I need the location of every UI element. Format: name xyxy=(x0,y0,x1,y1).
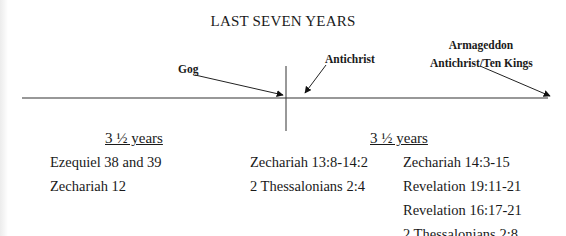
references-middle: Zechariah 13:8-14:2 2 Thessalonians 2:4 xyxy=(250,150,368,198)
marker-armageddon: Armageddon Antichrist/Ten Kings xyxy=(430,36,532,72)
marker-armageddon-line1: Armageddon xyxy=(430,36,532,54)
reference-item: Zechariah 12 xyxy=(50,174,162,198)
marker-antichrist: Antichrist xyxy=(325,50,375,68)
references-left: Ezequiel 38 and 39 Zechariah 12 xyxy=(50,150,162,198)
reference-item: Revelation 19:11-21 xyxy=(403,174,522,198)
period-heading-first: 3 ½ years xyxy=(105,130,163,147)
reference-item: Zechariah 13:8-14:2 xyxy=(250,150,368,174)
period-heading-second: 3 ½ years xyxy=(370,130,428,147)
antichrist-arrow xyxy=(305,65,326,93)
reference-item: Ezequiel 38 and 39 xyxy=(50,150,162,174)
marker-gog: Gog xyxy=(178,60,198,78)
gog-arrow xyxy=(195,75,283,95)
reference-item: 2 Thessalonians 2:8 xyxy=(403,222,522,236)
reference-item: Zechariah 14:3-15 xyxy=(403,150,522,174)
reference-item: 2 Thessalonians 2:4 xyxy=(250,174,368,198)
references-right: Zechariah 14:3-15 Revelation 19:11-21 Re… xyxy=(403,150,522,236)
reference-item: Revelation 16:17-21 xyxy=(403,198,522,222)
marker-armageddon-line2: Antichrist/Ten Kings xyxy=(430,54,532,72)
